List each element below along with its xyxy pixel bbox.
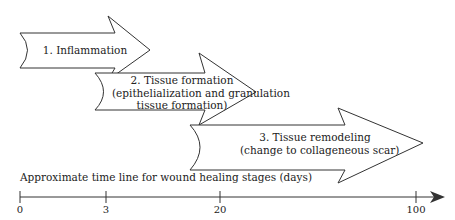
stage-2-label: 2. Tissue formation (epithelialization a… — [112, 74, 252, 112]
wound-healing-diagram: 1. Inflammation 2. Tissue formation (epi… — [0, 0, 455, 220]
tick-label-20: 20 — [214, 204, 227, 215]
stage-2-desc-line1: (epithelialization and granulation — [112, 87, 252, 100]
stage-1-title: 1. Inflammation — [30, 44, 140, 57]
stage-3-title: 3. Tissue remodeling — [240, 131, 390, 144]
stage-3-label: 3. Tissue remodeling (change to collagen… — [240, 131, 390, 156]
stage-3-desc: (change to collageneous scar) — [240, 144, 390, 157]
stage-1-label: 1. Inflammation — [30, 44, 140, 57]
stage-2-title: 2. Tissue formation — [112, 74, 252, 87]
tick-label-100: 100 — [406, 204, 425, 215]
timeline-label: Approximate time line for wound healing … — [20, 171, 312, 183]
stage-2-desc-line2: tissue formation) — [112, 99, 252, 112]
tick-label-0: 0 — [17, 204, 23, 215]
tick-label-3: 3 — [103, 204, 109, 215]
